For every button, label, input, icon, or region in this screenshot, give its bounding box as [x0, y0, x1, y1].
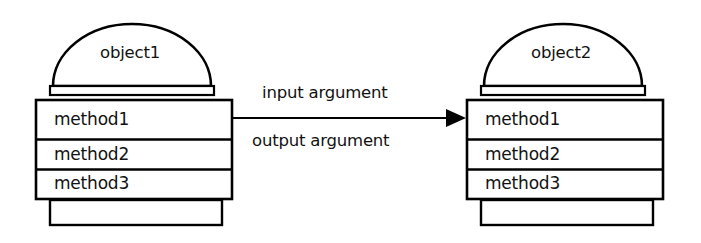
object2-method-1-label[interactable]: method1 [485, 111, 560, 128]
connector-label-input-argument: input argument [262, 85, 388, 102]
object2-neck-bar [481, 86, 645, 95]
connector-label-output-argument: output argument [252, 133, 389, 150]
object1-method-1-label[interactable]: method1 [54, 111, 129, 128]
diagram-canvas: object1 method1 method2 method3 input ar… [0, 0, 701, 243]
object2-title: object2 [531, 45, 591, 62]
object1-title: object1 [100, 45, 160, 62]
connector-arrowhead-icon [446, 109, 466, 127]
object1-base-rect [50, 200, 222, 225]
object2-method-3-label[interactable]: method3 [485, 175, 560, 192]
connector-arrow[interactable] [232, 109, 466, 127]
object1-method-3-label[interactable]: method3 [54, 175, 129, 192]
object1-neck-bar [50, 86, 214, 95]
object2-base-rect [481, 200, 653, 225]
object2-method-2-label[interactable]: method2 [485, 146, 560, 163]
object1-method-2-label[interactable]: method2 [54, 146, 129, 163]
